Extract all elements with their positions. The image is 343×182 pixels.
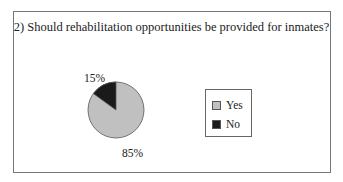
legend-item-yes: Yes [212,99,243,111]
legend-item-no: No [212,118,240,130]
legend-swatch-no [212,120,221,129]
pie-label-no: 15% [84,72,105,84]
pie-label-yes: 85% [122,147,143,159]
chart-frame [13,11,331,173]
legend-swatch-yes [212,101,221,110]
legend: Yes No [205,89,252,137]
legend-label-no: No [226,118,240,130]
legend-label-yes: Yes [226,99,243,111]
chart-title: 2) Should rehabilitation opportunities b… [0,20,343,35]
pie-chart [87,81,145,139]
